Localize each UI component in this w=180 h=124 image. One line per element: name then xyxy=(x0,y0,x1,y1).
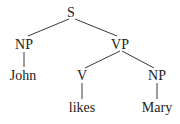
node-vp: VP xyxy=(111,37,129,52)
edge-s-vp xyxy=(75,19,117,36)
syntax-tree: S NP VP John V NP likes Mary xyxy=(0,0,180,124)
node-np-subject: NP xyxy=(15,37,33,52)
edge-vp-v xyxy=(85,51,120,68)
node-np-object: NP xyxy=(148,68,166,83)
leaf-john: John xyxy=(10,68,36,83)
node-v: V xyxy=(77,68,87,83)
edge-s-np xyxy=(28,19,69,36)
node-s: S xyxy=(67,5,75,20)
edge-vp-np xyxy=(122,51,154,68)
leaf-likes: likes xyxy=(69,100,95,115)
leaf-mary: Mary xyxy=(142,100,172,115)
